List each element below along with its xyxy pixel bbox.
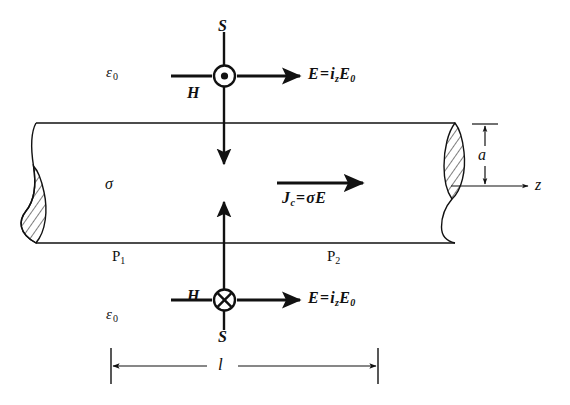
- cylinder-left-cut-face: [21, 166, 46, 243]
- h-out-of-page-dot: [221, 72, 228, 79]
- efield-bottom-equals: =: [320, 289, 329, 306]
- cylinder-right-cut-face: [444, 123, 465, 199]
- terminal-p2-subscript: 2: [335, 255, 340, 266]
- terminal-label-p2: P2: [327, 249, 340, 266]
- current-field: E: [315, 189, 326, 206]
- radius-dimension-label: a: [478, 147, 486, 163]
- magnetic-label-top: H: [187, 85, 200, 101]
- conductor-cylinder: [21, 123, 464, 243]
- permittivity-top-subscript: 0: [113, 71, 118, 82]
- efield-bottom-magnitude-subscript: 0: [350, 297, 355, 308]
- current-subscript: c: [290, 197, 295, 208]
- current-equals: =: [296, 189, 305, 206]
- poynting-label-top: S: [218, 18, 227, 34]
- current-conductivity: σ: [306, 189, 315, 206]
- permittivity-bottom-symbol: ε: [106, 306, 112, 322]
- permittivity-top-symbol: ε: [106, 64, 112, 80]
- permittivity-label-top: ε0: [106, 65, 118, 82]
- efield-bottom-magnitude: E: [339, 289, 350, 306]
- efield-top-magnitude-subscript: 0: [350, 73, 355, 84]
- poynting-label-bottom: S: [218, 329, 227, 345]
- current-symbol: J: [282, 189, 290, 206]
- efield-top-equals: =: [320, 65, 329, 82]
- conductivity-label: σ: [105, 176, 113, 192]
- cylinder-right-silhouette: [442, 199, 456, 243]
- magnetic-label-bottom: H: [187, 288, 200, 304]
- efield-top-vector: E: [308, 65, 319, 82]
- physics-figure: ε0 ε0 σ S H E=izE0 H S E=izE0 Jc=σE P1 P…: [0, 0, 570, 405]
- terminal-label-p1: P1: [112, 249, 125, 266]
- bottom-field-group: [171, 202, 300, 330]
- efield-bottom-vector: E: [308, 289, 319, 306]
- conduction-current-equation: Jc=σE: [282, 190, 326, 208]
- length-dimension-label: l: [218, 356, 223, 373]
- z-axis-label: z: [535, 177, 541, 193]
- efield-equation-bottom: E=izE0: [308, 290, 355, 308]
- terminal-p1-subscript: 1: [120, 255, 125, 266]
- permittivity-label-bottom: ε0: [106, 307, 118, 324]
- permittivity-bottom-subscript: 0: [113, 313, 118, 324]
- efield-equation-top: E=izE0: [308, 66, 355, 84]
- length-dimension-group: [111, 348, 378, 384]
- efield-top-magnitude: E: [339, 65, 350, 82]
